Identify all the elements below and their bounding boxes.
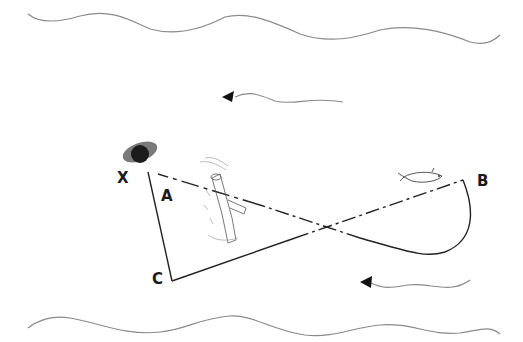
- point-label-b: B: [477, 174, 488, 189]
- river-bank-top: [28, 13, 500, 43]
- route-b-curve: [360, 180, 470, 254]
- fish-icon: [398, 168, 442, 182]
- point-label-x: X: [117, 171, 129, 186]
- current-arrow-bottom: [360, 276, 470, 288]
- anchor-buoy-icon: [120, 137, 160, 166]
- point-label-a: A: [161, 189, 173, 204]
- current-arrow-top: [222, 91, 343, 102]
- point-label-c: C: [152, 272, 163, 287]
- submerged-log-icon: [200, 158, 246, 243]
- route-c-to-b: [172, 238, 295, 281]
- river-bank-bottom: [28, 316, 500, 336]
- route-to-a: [260, 205, 360, 238]
- diagram-canvas: [0, 0, 523, 342]
